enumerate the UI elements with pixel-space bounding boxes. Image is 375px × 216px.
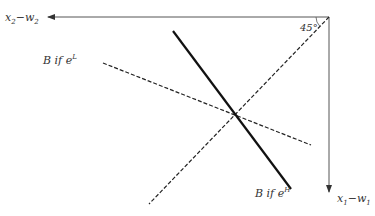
horizontal-axis-label: x2−w2 [5, 11, 39, 26]
45-degree-line [149, 17, 329, 204]
b-if-el-label: B if eL [42, 53, 77, 67]
b-if-eh-label: B if eH [254, 186, 291, 200]
b-if-eh-line [173, 31, 291, 189]
angle-label: 45° [299, 22, 318, 33]
vertical-axis-label: x1−w1 [337, 192, 371, 207]
diagram-canvas: x2−w2 x1−w1 45° B if eL B if eH [0, 0, 375, 216]
